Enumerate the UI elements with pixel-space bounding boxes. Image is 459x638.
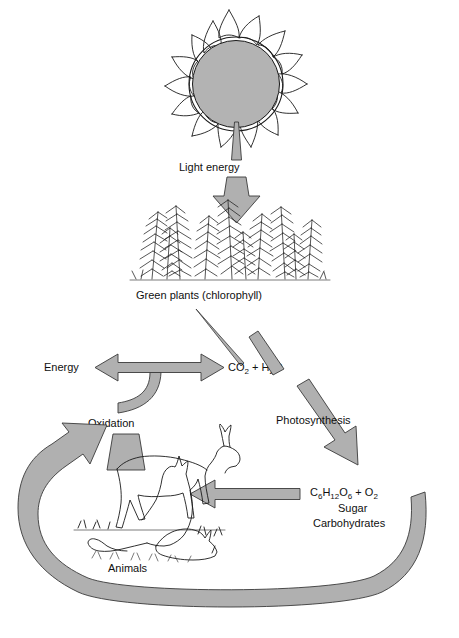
label-light-energy: Light energy — [179, 161, 240, 173]
label-animals: Animals — [108, 562, 148, 574]
label-sugar-formula: C6H12O6 + O2 — [310, 486, 378, 501]
sugar-c: C — [310, 486, 318, 498]
sugar-h: H — [322, 486, 330, 498]
photosynthesis-cycle-diagram: Light energy Green plants (chloroph — [0, 0, 459, 638]
arrow-oxidation-branch — [118, 373, 161, 414]
arrow-oxidation — [107, 434, 145, 470]
sugar-plus: + O — [352, 486, 374, 498]
arrow-recycle-loop — [18, 423, 426, 607]
label-photosynthesis: Photosynthesis — [276, 414, 351, 426]
arrow-photosynthesis — [249, 331, 358, 465]
sugar-o2-sub: 2 — [373, 492, 378, 501]
label-carbohydrates: Carbohydrates — [313, 517, 386, 529]
label-sugar: Sugar — [338, 502, 368, 514]
label-green-plants: Green plants (chlorophyll) — [136, 289, 262, 301]
diagram-canvas: Light energy Green plants (chloroph — [0, 0, 459, 638]
co2-c: CO — [228, 361, 245, 373]
label-energy: Energy — [44, 361, 79, 373]
